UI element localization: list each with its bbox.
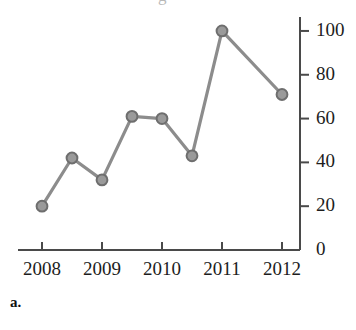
data-point-marker — [277, 89, 288, 100]
panel-label: a. — [10, 294, 21, 311]
y-tick-label-0: 0 — [316, 238, 326, 260]
y-tick-label-100: 100 — [316, 19, 345, 41]
line-chart-plot — [0, 0, 356, 330]
data-point-marker — [37, 201, 48, 212]
x-tick-label-2011: 2011 — [192, 258, 252, 280]
chart-series — [37, 26, 288, 212]
x-tick-label-2009: 2009 — [72, 258, 132, 280]
chart-axes — [18, 17, 309, 250]
x-tick-label-2008: 2008 — [12, 258, 72, 280]
data-point-marker — [157, 113, 168, 124]
data-point-marker — [97, 175, 108, 186]
x-tick-label-2010: 2010 — [132, 258, 192, 280]
figure-panel: g 20082009201020112012020406080100 a. — [0, 0, 356, 330]
data-point-marker — [187, 150, 198, 161]
data-point-marker — [127, 111, 138, 122]
y-tick-label-60: 60 — [316, 107, 335, 129]
data-point-marker — [217, 26, 228, 37]
y-tick-label-40: 40 — [316, 150, 335, 172]
x-tick-label-2012: 2012 — [252, 258, 312, 280]
data-point-marker — [67, 153, 78, 164]
y-tick-label-80: 80 — [316, 63, 335, 85]
y-tick-label-20: 20 — [316, 194, 335, 216]
